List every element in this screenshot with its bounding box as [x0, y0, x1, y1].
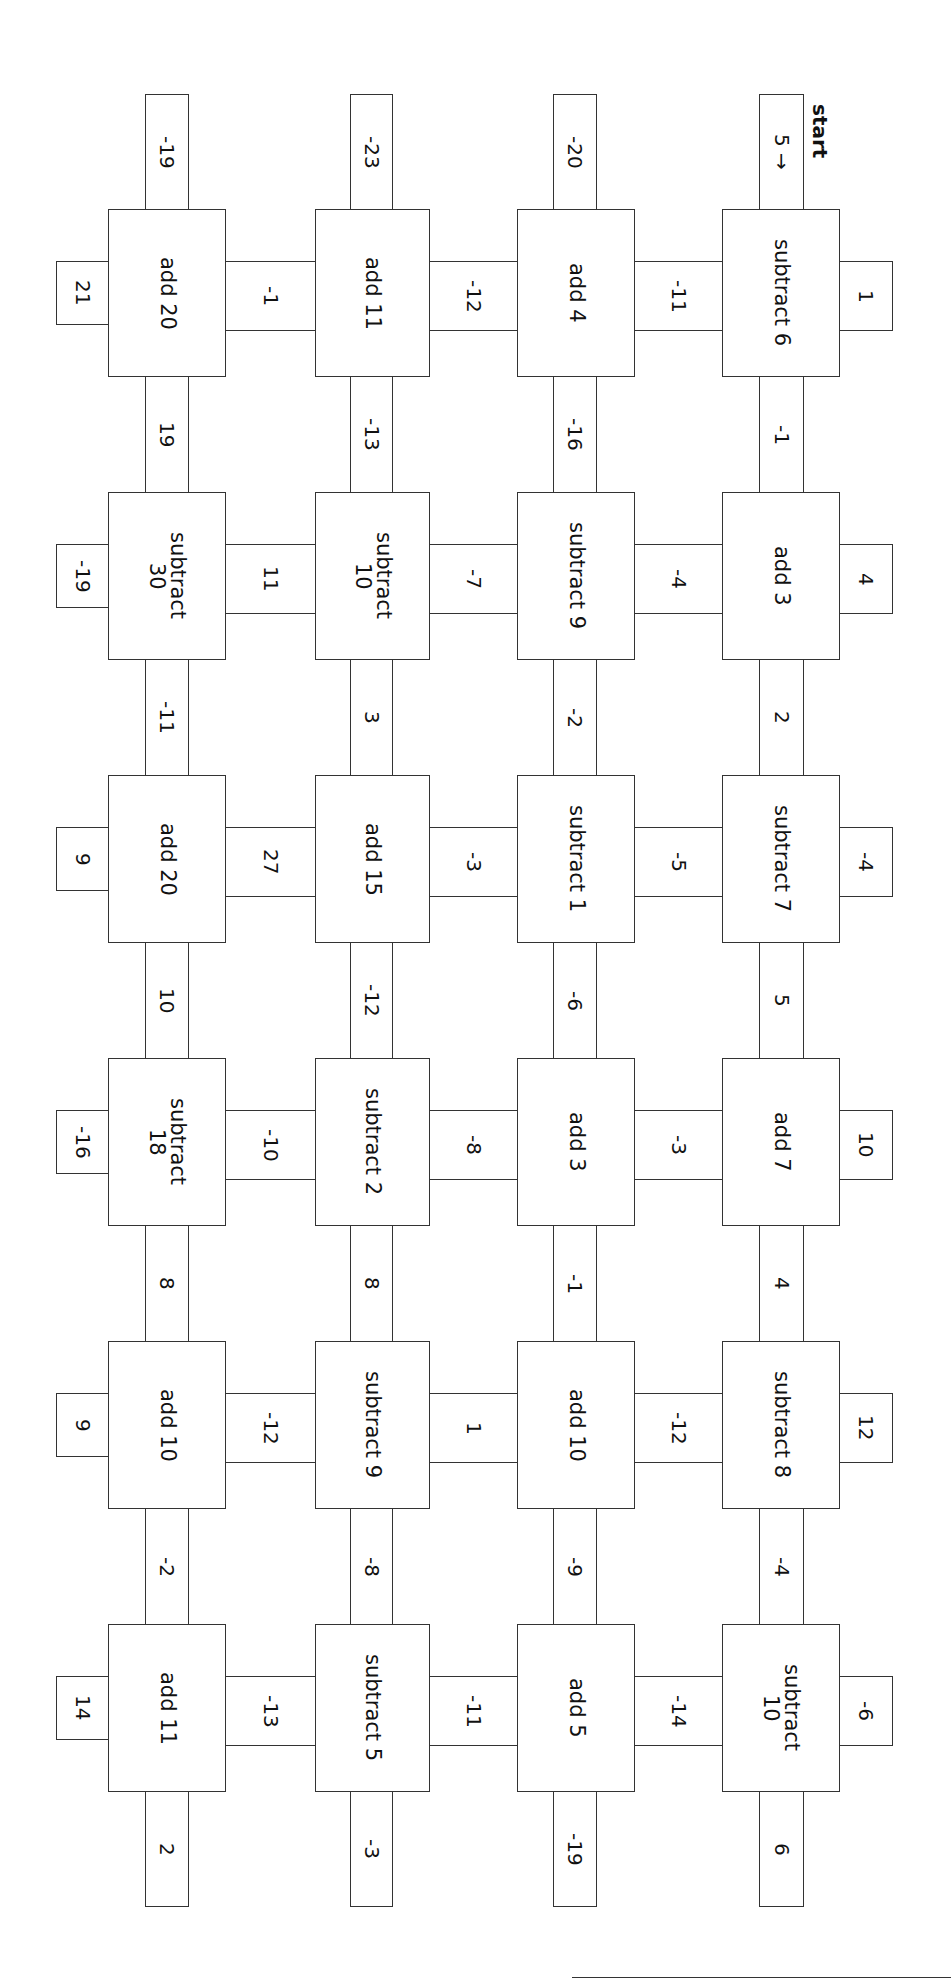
operation-box[interactable]: subtract 1	[517, 775, 635, 943]
horizontal-connector[interactable]: -8	[429, 1110, 518, 1180]
horizontal-connector[interactable]: -12	[429, 261, 518, 331]
horizontal-connector[interactable]: 1	[429, 1393, 518, 1463]
vertical-connector[interactable]: -1	[759, 376, 804, 493]
bottom-tab[interactable]: 2	[145, 1791, 189, 1907]
horizontal-connector[interactable]: -11	[429, 1676, 518, 1746]
vertical-connector[interactable]: 10	[145, 942, 189, 1059]
horizontal-connector[interactable]: -7	[429, 544, 518, 614]
operation-box[interactable]: subtract 8	[722, 1341, 840, 1509]
horizontal-connector[interactable]: 27	[225, 827, 316, 897]
right-edge-tab[interactable]: -6	[839, 1676, 893, 1746]
operation-box[interactable]: add 3	[722, 492, 840, 660]
right-edge-tab[interactable]: 4	[839, 544, 893, 614]
horizontal-connector-text: -12	[464, 280, 484, 313]
right-edge-tab[interactable]: -4	[839, 827, 893, 897]
left-edge-tab[interactable]: -19	[56, 544, 109, 608]
right-edge-tab[interactable]: 1	[839, 261, 893, 331]
vertical-connector[interactable]: -11	[145, 659, 189, 776]
start-tab[interactable]: 5 →	[759, 94, 804, 210]
operation-box[interactable]: add 10	[517, 1341, 635, 1509]
vertical-connector[interactable]: -16	[553, 376, 597, 493]
vertical-connector[interactable]: -2	[553, 659, 597, 776]
operation-box[interactable]: subtract 10	[722, 1624, 840, 1792]
horizontal-connector[interactable]: -14	[634, 1676, 723, 1746]
vertical-connector[interactable]: -1	[553, 1225, 597, 1342]
horizontal-connector-text: -12	[261, 1412, 281, 1445]
vertical-connector[interactable]: 3	[350, 659, 393, 776]
operation-box[interactable]: subtract 18	[108, 1058, 226, 1226]
vertical-connector-text: -6	[565, 991, 585, 1011]
operation-box[interactable]: add 20	[108, 775, 226, 943]
bottom-tab[interactable]: 6	[759, 1791, 804, 1907]
horizontal-connector-text: -8	[464, 1135, 484, 1155]
operation-box[interactable]: subtract 7	[722, 775, 840, 943]
operation-box-text: add 20	[157, 823, 178, 896]
right-edge-tab[interactable]: 12	[839, 1393, 893, 1463]
operation-box[interactable]: add 20	[108, 209, 226, 377]
vertical-connector[interactable]: -6	[553, 942, 597, 1059]
horizontal-connector[interactable]: -3	[429, 827, 518, 897]
vertical-connector[interactable]: -13	[350, 376, 393, 493]
operation-box[interactable]: add 3	[517, 1058, 635, 1226]
operation-box[interactable]: add 11	[108, 1624, 226, 1792]
operation-box[interactable]: subtract 9	[315, 1341, 430, 1509]
vertical-connector[interactable]: -4	[759, 1508, 804, 1625]
right-edge-tab-text: 1	[856, 290, 876, 303]
top-tab-text: -23	[362, 136, 382, 169]
horizontal-connector[interactable]: -5	[634, 827, 723, 897]
operation-box[interactable]: subtract 6	[722, 209, 840, 377]
bottom-tab-text: 6	[772, 1843, 792, 1856]
vertical-connector[interactable]: 8	[145, 1225, 189, 1342]
operation-box[interactable]: add 4	[517, 209, 635, 377]
vertical-connector[interactable]: -2	[145, 1508, 189, 1625]
operation-box[interactable]: add 7	[722, 1058, 840, 1226]
operation-box[interactable]: subtract 2	[315, 1058, 430, 1226]
horizontal-connector[interactable]: -4	[634, 544, 723, 614]
right-edge-tab[interactable]: 10	[839, 1110, 893, 1180]
left-edge-tab[interactable]: 14	[56, 1676, 109, 1740]
horizontal-connector[interactable]: -12	[225, 1393, 316, 1463]
left-edge-tab-text: -16	[73, 1126, 93, 1159]
vertical-connector[interactable]: 2	[759, 659, 804, 776]
bottom-tab[interactable]: -19	[553, 1791, 597, 1907]
vertical-connector[interactable]: 8	[350, 1225, 393, 1342]
left-edge-tab-text: 9	[73, 853, 93, 866]
top-tab[interactable]: -19	[145, 94, 189, 210]
operation-box[interactable]: add 5	[517, 1624, 635, 1792]
vertical-connector-text: -13	[362, 418, 382, 451]
operation-box[interactable]: add 10	[108, 1341, 226, 1509]
left-edge-tab[interactable]: 21	[56, 261, 109, 325]
operation-box[interactable]: add 11	[315, 209, 430, 377]
operation-box[interactable]: subtract 9	[517, 492, 635, 660]
top-tab[interactable]: -20	[553, 94, 597, 210]
horizontal-connector[interactable]: -3	[634, 1110, 723, 1180]
vertical-connector-text: -2	[565, 708, 585, 728]
left-edge-tab[interactable]: -16	[56, 1110, 109, 1174]
operation-box[interactable]: subtract 5	[315, 1624, 430, 1792]
horizontal-connector[interactable]: -10	[225, 1110, 316, 1180]
vertical-connector-text: -1	[772, 425, 792, 445]
vertical-connector-text: -16	[565, 418, 585, 451]
vertical-connector[interactable]: 4	[759, 1225, 804, 1342]
right-edge-tab-text: 12	[856, 1415, 876, 1440]
operation-box[interactable]: add 15	[315, 775, 430, 943]
operation-box[interactable]: subtract 30	[108, 492, 226, 660]
vertical-connector[interactable]: 5	[759, 942, 804, 1059]
horizontal-connector[interactable]: 11	[225, 544, 316, 614]
horizontal-connector[interactable]: -1	[225, 261, 316, 331]
horizontal-connector[interactable]: -11	[634, 261, 723, 331]
vertical-connector[interactable]: 19	[145, 376, 189, 493]
left-edge-tab[interactable]: 9	[56, 827, 109, 891]
vertical-connector[interactable]: -8	[350, 1508, 393, 1625]
vertical-connector-text: -4	[772, 1557, 792, 1577]
vertical-connector[interactable]: -12	[350, 942, 393, 1059]
bottom-tab[interactable]: -3	[350, 1791, 393, 1907]
vertical-connector[interactable]: -9	[553, 1508, 597, 1625]
left-edge-tab[interactable]: 9	[56, 1393, 109, 1457]
operation-box[interactable]: subtract 10	[315, 492, 430, 660]
horizontal-connector-text: -1	[261, 286, 281, 306]
horizontal-connector[interactable]: -12	[634, 1393, 723, 1463]
horizontal-connector[interactable]: -13	[225, 1676, 316, 1746]
top-tab[interactable]: -23	[350, 94, 393, 210]
operation-box-text: subtract 10	[352, 532, 394, 619]
